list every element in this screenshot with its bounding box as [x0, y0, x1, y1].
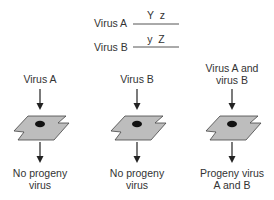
column-3-input-line1: Virus A and: [192, 62, 272, 74]
cell-icon: [14, 116, 69, 140]
genotype-label-b: Virus B: [94, 41, 128, 53]
genotype-alleles-b: y Z: [140, 33, 172, 45]
arrowhead-icon: [229, 103, 236, 110]
arrowhead-icon: [134, 156, 141, 163]
genotype-alleles-a: Y z: [140, 9, 172, 21]
arrowhead-icon: [229, 156, 236, 163]
cell-icon: [206, 116, 261, 140]
column-2-graphics: [111, 89, 166, 163]
nucleus-icon: [227, 121, 237, 127]
arrowhead-icon: [37, 103, 44, 110]
column-3-result-line1: Progeny virus: [192, 167, 272, 179]
arrowhead-icon: [134, 103, 141, 110]
column-1-result-line1: No progeny: [0, 167, 80, 179]
genotype-label-a: Virus A: [94, 17, 127, 29]
column-1-result-line2: virus: [0, 179, 80, 191]
column-3-graphics: [206, 89, 261, 163]
column-2-input: Virus B: [97, 73, 177, 85]
column-3-input-line2: virus B: [192, 74, 272, 86]
cell-icon: [111, 116, 166, 140]
column-1-input: Virus A: [0, 73, 80, 85]
arrowhead-icon: [37, 156, 44, 163]
column-2-result-line1: No progeny: [97, 167, 177, 179]
column-1-graphics: [14, 89, 69, 163]
column-3-result-line2: A and B: [192, 179, 272, 191]
nucleus-icon: [35, 121, 45, 127]
nucleus-icon: [132, 121, 142, 127]
column-2-result-line2: virus: [97, 179, 177, 191]
